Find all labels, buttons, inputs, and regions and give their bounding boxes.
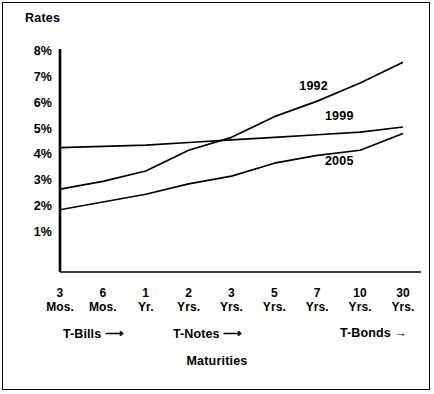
x-tick-label: 3Yrs. <box>210 286 254 314</box>
x-tick-label: 5Yrs. <box>252 286 296 314</box>
x-tick-unit: Yrs. <box>210 300 254 314</box>
arrow-icon-t-bonds: → <box>394 326 407 340</box>
y-tick-label: 8% <box>22 44 52 58</box>
x-tick-number: 30 <box>381 286 425 300</box>
series-label-1999: 1999 <box>325 109 354 123</box>
category-bracket-t-notes: T-Notes ⟶ <box>173 326 242 341</box>
category-bracket-t-bonds-label: T-Bonds <box>340 326 391 340</box>
x-axis-title: Maturities <box>0 354 434 368</box>
x-tick-label: 3Mos. <box>38 286 82 314</box>
x-tick-unit: Mos. <box>81 300 125 314</box>
x-tick-unit: Yr. <box>124 300 168 314</box>
category-bracket-t-bills-label: T-Bills <box>63 327 101 341</box>
x-tick-number: 3 <box>38 286 82 300</box>
y-tick-label: 7% <box>22 70 52 84</box>
series-line-1992 <box>60 62 403 189</box>
x-tick-label: 2Yrs. <box>167 286 211 314</box>
category-bracket-t-notes-label: T-Notes <box>173 327 220 341</box>
x-tick-label: 1Yr. <box>124 286 168 314</box>
x-tick-number: 1 <box>124 286 168 300</box>
x-tick-unit: Yrs. <box>381 300 425 314</box>
x-tick-number: 6 <box>81 286 125 300</box>
x-tick-label: 6Mos. <box>81 286 125 314</box>
x-tick-number: 2 <box>167 286 211 300</box>
x-tick-unit: Yrs. <box>167 300 211 314</box>
y-tick-label: 6% <box>22 96 52 110</box>
x-tick-label: 10Yrs. <box>338 286 382 314</box>
x-tick-unit: Mos. <box>38 300 82 314</box>
x-tick-unit: Yrs. <box>338 300 382 314</box>
x-tick-number: 3 <box>210 286 254 300</box>
x-tick-label: 30Yrs. <box>381 286 425 314</box>
x-tick-unit: Yrs. <box>252 300 296 314</box>
arrow-icon-t-notes: ⟶ <box>223 327 242 341</box>
x-tick-number: 10 <box>338 286 382 300</box>
category-bracket-t-bonds: T-Bonds → <box>340 326 407 340</box>
y-tick-label: 5% <box>22 122 52 136</box>
series-line-2005 <box>60 133 403 209</box>
x-tick-label: 7Yrs. <box>295 286 339 314</box>
category-bracket-t-bills: T-Bills ⟶ <box>63 326 124 341</box>
y-tick-label: 3% <box>22 173 52 187</box>
y-tick-label: 1% <box>22 225 52 239</box>
x-tick-number: 5 <box>252 286 296 300</box>
x-tick-unit: Yrs. <box>295 300 339 314</box>
y-tick-label: 2% <box>22 199 52 213</box>
y-tick-label: 4% <box>22 147 52 161</box>
series-label-1992: 1992 <box>299 79 328 93</box>
arrow-icon-t-bills: ⟶ <box>105 327 124 341</box>
x-tick-number: 7 <box>295 286 339 300</box>
series-label-2005: 2005 <box>325 154 354 168</box>
chart-figure: YIELD CURVES FOR U.S. TREASURY SECURITIE… <box>0 0 434 394</box>
